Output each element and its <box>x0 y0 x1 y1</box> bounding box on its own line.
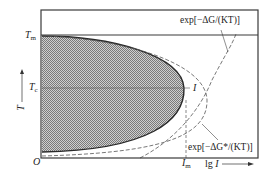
formula-bottom-label: exp[−ΔG*/(KT)] <box>188 143 253 153</box>
up-arrow-icon <box>20 69 24 74</box>
formula-bottom-leader <box>202 124 218 140</box>
x-axis-label-prefix: lg <box>205 158 215 169</box>
tc-label: Tc <box>29 82 38 94</box>
im-label-sub: m <box>185 162 190 170</box>
formula-top-leader <box>221 30 228 52</box>
right-arrow-icon <box>248 162 254 166</box>
t-axis-label: T <box>16 105 26 111</box>
tm-label: Tm <box>25 30 36 42</box>
origin-label: O <box>33 157 40 167</box>
i-curve-label: I <box>193 83 196 93</box>
shaded-nucleation-region <box>42 36 184 152</box>
tc-label-sub: c <box>35 86 38 94</box>
x-axis-label: lg I <box>205 159 219 169</box>
x-axis-label-var: I <box>215 158 218 169</box>
formula-top-label: exp[−ΔG/(KT)] <box>180 16 240 26</box>
im-label: Im <box>182 158 191 170</box>
tm-label-sub: m <box>31 34 36 42</box>
